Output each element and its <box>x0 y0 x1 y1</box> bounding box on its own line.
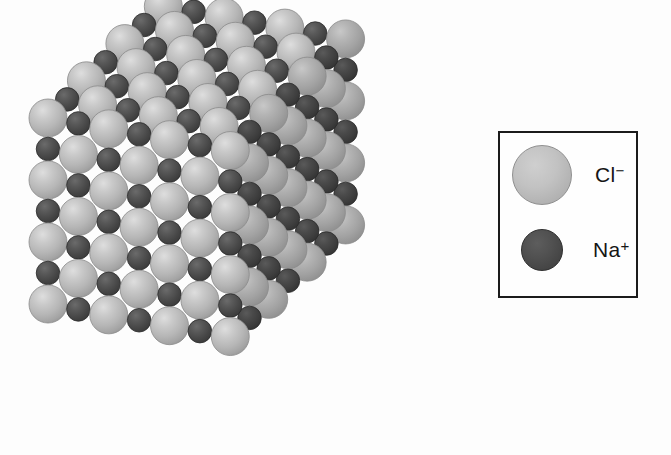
sodium-ion-sphere <box>219 294 243 318</box>
sodium-ion-sphere <box>36 137 60 161</box>
chloride-ion-sphere <box>29 161 67 199</box>
chloride-ion-swatch <box>512 145 572 205</box>
sodium-ion-sphere <box>188 257 212 281</box>
chloride-ion-sphere <box>211 194 249 232</box>
sodium-ion-sphere <box>158 221 182 245</box>
chloride-ion-sphere <box>90 296 128 334</box>
legend-label-sodium-charge: + <box>620 237 629 254</box>
sodium-ion-sphere <box>127 185 151 209</box>
sodium-ion-sphere <box>188 133 212 157</box>
chloride-ion-sphere <box>29 223 67 261</box>
legend: Cl− Na+ <box>498 131 638 298</box>
sodium-ion-sphere <box>67 174 91 198</box>
chloride-ion-sphere <box>120 146 158 184</box>
crystal-lattice-illustration <box>0 0 490 455</box>
sodium-ion-sphere <box>67 236 91 260</box>
sodium-ion-sphere <box>97 210 121 234</box>
legend-label-chloride-charge: − <box>615 162 624 179</box>
chloride-ion-sphere <box>181 219 219 257</box>
chloride-ion-sphere <box>59 135 97 173</box>
legend-entry-sodium: Na+ <box>512 229 630 271</box>
chloride-ion-sphere <box>181 157 219 195</box>
sodium-ion-sphere <box>188 319 212 343</box>
sodium-ion-swatch <box>521 229 563 271</box>
sodium-ion-sphere <box>67 112 91 136</box>
chloride-ion-sphere <box>59 197 97 235</box>
chloride-ion-sphere <box>29 285 67 323</box>
chloride-ion-sphere <box>151 245 189 283</box>
chloride-ion-sphere <box>211 132 249 170</box>
sodium-ion-sphere <box>36 261 60 285</box>
chloride-ion-sphere <box>120 270 158 308</box>
legend-label-sodium-base: Na <box>593 238 620 261</box>
chloride-ion-sphere <box>211 318 249 356</box>
chloride-ion-sphere <box>211 256 249 294</box>
chloride-ion-sphere <box>151 121 189 159</box>
chloride-ion-sphere <box>59 259 97 297</box>
sodium-ion-sphere <box>127 123 151 147</box>
legend-label-chloride: Cl− <box>595 163 625 187</box>
sodium-ion-sphere <box>158 159 182 183</box>
sodium-ion-sphere <box>127 308 151 332</box>
figure-canvas: Cl− Na+ <box>0 0 671 455</box>
sodium-ion-sphere <box>219 232 243 256</box>
chloride-ion-sphere <box>90 172 128 210</box>
chloride-ion-sphere <box>120 208 158 246</box>
legend-label-sodium: Na+ <box>593 238 630 262</box>
lattice-sphere-group <box>29 0 365 356</box>
chloride-ion-sphere <box>151 307 189 345</box>
chloride-ion-sphere <box>151 183 189 221</box>
legend-label-chloride-base: Cl <box>595 163 615 186</box>
sodium-ion-sphere <box>188 195 212 219</box>
chloride-ion-sphere <box>181 281 219 319</box>
chloride-ion-sphere <box>29 99 67 137</box>
sodium-ion-sphere <box>67 298 91 322</box>
sodium-ion-sphere <box>127 246 151 270</box>
sodium-ion-sphere <box>158 283 182 307</box>
sodium-ion-sphere <box>219 170 243 194</box>
chloride-ion-sphere <box>90 110 128 148</box>
legend-entry-chloride: Cl− <box>512 145 625 205</box>
sodium-ion-sphere <box>97 148 121 172</box>
sodium-ion-sphere <box>36 199 60 223</box>
sodium-ion-sphere <box>97 272 121 296</box>
chloride-ion-sphere <box>90 234 128 272</box>
